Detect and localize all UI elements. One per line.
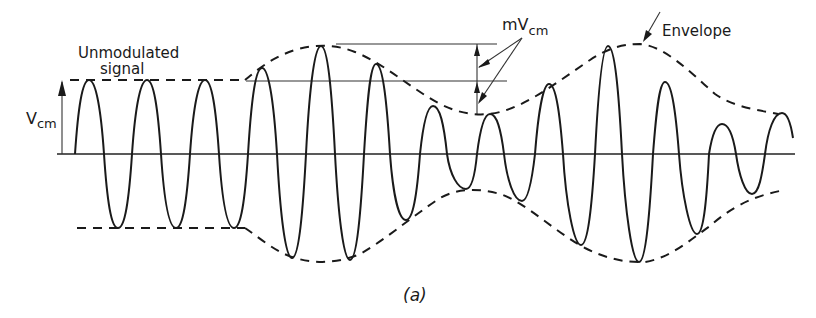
mvcm-dimension-arrows (474, 38, 522, 115)
mvcm-main: mV (502, 15, 529, 34)
vcm-main: V (26, 109, 37, 128)
mvcm-label: mVcm (502, 15, 548, 38)
unmodulated-label-line2: signal (100, 60, 144, 78)
vcm-subscript: cm (37, 116, 57, 131)
vcm-label: Vcm (26, 109, 57, 131)
figure-caption: (a) (403, 285, 427, 305)
vcm-amplitude-arrow (58, 80, 66, 154)
am-modulation-diagram: Unmodulated signal Vcm mVcm Envelope (a) (0, 0, 816, 318)
mvcm-subscript: cm (529, 23, 549, 38)
envelope-label: Envelope (662, 22, 731, 40)
envelope-leader (643, 12, 660, 42)
envelope-lower (245, 190, 785, 262)
